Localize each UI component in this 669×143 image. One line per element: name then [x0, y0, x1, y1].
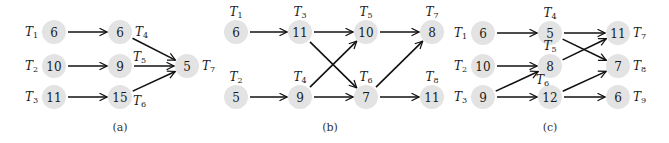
node-t7: 11T7 [606, 21, 646, 45]
node-value: 10 [46, 60, 61, 74]
edge-t6-to-t7 [133, 71, 175, 91]
node-t5: 9T5 [108, 50, 146, 78]
node-t8: 7T8 [606, 54, 646, 78]
task-label: T7 [425, 5, 438, 20]
node-t1: 6T1 [224, 5, 248, 44]
node-value: 11 [424, 91, 439, 105]
node-value: 7 [614, 60, 622, 74]
panel-b: 6T15T211T39T410T57T68T711T8(b) [224, 5, 444, 134]
task-label: T1 [25, 25, 38, 40]
node-value: 9 [116, 60, 124, 74]
panel-a: 6T110T211T36T49T515T65T7(a) [25, 20, 215, 134]
task-label: T7 [633, 26, 646, 41]
node-t3: 11T3 [25, 85, 66, 109]
task-label: T3 [293, 5, 306, 20]
node-t1: 6T1 [454, 21, 495, 45]
task-graph-figure: 6T110T211T36T49T515T65T7(a) 6T15T211T39T… [0, 0, 669, 143]
node-value: 9 [296, 91, 304, 105]
node-t2: 10T2 [25, 54, 66, 78]
node-value: 11 [292, 26, 307, 40]
node-t6: 15T6 [108, 85, 146, 109]
node-value: 10 [475, 60, 490, 74]
node-t7: 5T7 [175, 54, 215, 78]
node-value: 9 [479, 91, 487, 105]
node-t6: 7T6 [354, 70, 378, 109]
task-label: T2 [25, 59, 38, 74]
edge-t6-to-t7 [376, 41, 423, 87]
node-t2: 5T2 [224, 70, 248, 109]
node-t3: 11T3 [288, 5, 312, 44]
task-label: T8 [425, 70, 438, 85]
node-t6: 12T6 [536, 73, 562, 109]
task-label: T3 [454, 90, 467, 105]
task-label: T5 [133, 50, 146, 65]
node-value: 15 [112, 91, 127, 105]
node-t9: 6T9 [606, 85, 646, 109]
panel-caption: (c) [543, 121, 558, 134]
task-label: T2 [454, 59, 467, 74]
node-value: 12 [542, 91, 557, 105]
node-value: 5 [183, 60, 191, 74]
edge-t3-to-t5 [496, 71, 538, 91]
node-value: 8 [428, 26, 436, 40]
edge-t6-to-t8 [563, 71, 606, 91]
task-label: T1 [229, 5, 242, 20]
node-t8: 11T8 [420, 70, 444, 109]
task-label: T9 [633, 90, 646, 105]
task-label: T2 [229, 70, 242, 85]
node-value: 6 [614, 91, 622, 105]
task-label: T4 [293, 70, 306, 85]
node-t4: 9T4 [288, 70, 312, 109]
node-t5: 10T5 [354, 5, 378, 44]
task-label: T4 [543, 6, 556, 21]
task-label: T4 [135, 25, 148, 40]
node-value: 5 [232, 91, 240, 105]
node-t7: 8T7 [420, 5, 444, 44]
task-label: T5 [359, 5, 372, 20]
node-t3: 9T3 [454, 85, 495, 109]
node-value: 11 [46, 91, 61, 105]
task-label: T8 [633, 59, 646, 74]
task-label: T1 [454, 26, 467, 41]
task-label: T3 [25, 90, 38, 105]
node-t2: 10T2 [454, 54, 495, 78]
node-value: 6 [50, 26, 58, 40]
node-value: 7 [362, 91, 370, 105]
task-label: T7 [202, 59, 215, 74]
node-value: 6 [116, 26, 124, 40]
node-t1: 6T1 [25, 20, 66, 44]
node-value: 11 [610, 27, 625, 41]
panel-c: 6T110T29T35T48T512T611T77T86T9(c) [454, 6, 646, 134]
node-value: 6 [479, 27, 487, 41]
node-value: 8 [546, 60, 554, 74]
task-label: T6 [359, 70, 372, 85]
panel-caption: (a) [112, 121, 127, 134]
node-value: 10 [358, 26, 373, 40]
node-value: 6 [232, 26, 240, 40]
panel-caption: (b) [322, 121, 338, 134]
node-t4: 6T4 [108, 20, 148, 44]
task-label: T6 [133, 94, 146, 109]
